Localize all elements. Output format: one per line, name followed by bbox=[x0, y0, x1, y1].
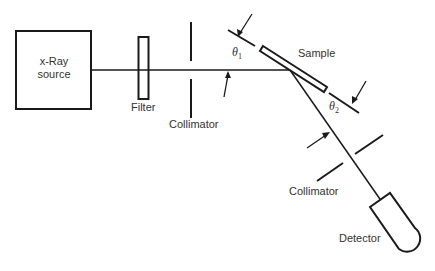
theta1-arrow-lower bbox=[225, 71, 231, 78]
sample-label: Sample bbox=[298, 47, 335, 59]
collimator1-label: Collimator bbox=[169, 118, 219, 130]
xray-source-label: x-Ray source bbox=[37, 55, 71, 81]
collimator2-upper bbox=[355, 135, 383, 154]
collimator2-label: Collimator bbox=[289, 185, 339, 197]
diagram-drawing bbox=[0, 0, 435, 271]
theta1-subscript: 1 bbox=[238, 52, 242, 61]
filter-label: Filter bbox=[131, 101, 155, 113]
theta2-subscript: 2 bbox=[335, 106, 339, 115]
theta2-arrow-lower bbox=[322, 132, 330, 139]
theta2-label: θ2 bbox=[329, 99, 339, 115]
theta1-label: θ1 bbox=[232, 45, 242, 61]
diffracted-beam bbox=[290, 70, 382, 202]
xray-diffraction-diagram: x-Ray source Filter Collimator Sample Co… bbox=[0, 0, 435, 271]
source-label-line2: source bbox=[37, 68, 71, 81]
collimator2-lower bbox=[317, 163, 343, 181]
detector-label: Detector bbox=[339, 232, 381, 244]
source-label-line1: x-Ray bbox=[37, 55, 71, 68]
filter-plate bbox=[139, 37, 149, 99]
